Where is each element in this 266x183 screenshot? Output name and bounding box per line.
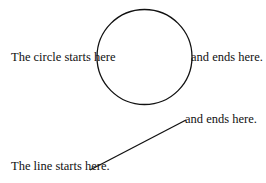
circle-start-label: The circle starts here: [11, 50, 115, 64]
line-start-label: The line starts here.: [11, 159, 110, 173]
diagram-canvas: The circle starts here and ends here. an…: [0, 0, 266, 183]
diagram-svg: [0, 0, 266, 183]
circle-end-label: and ends here.: [191, 50, 263, 64]
line-end-label: and ends here.: [185, 112, 257, 126]
